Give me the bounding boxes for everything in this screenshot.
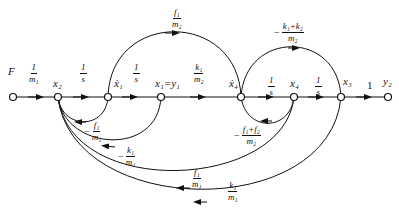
arc-x3-x4dot [241, 47, 341, 97]
node-y2 [385, 94, 392, 101]
arc-x1dot-x2 [58, 97, 108, 122]
signal-flow-graph: F x₂ ẋ₁ x₁=y₁ ẋ₄ x₄ x₃ y₂ 1m₁ 1s 1s k₁m₂… [0, 0, 399, 208]
node-label-x4: x₄ [290, 78, 299, 89]
node-x3 [338, 94, 345, 101]
gain-arc-x4-x4dot: − f₁+f₂m₂ [234, 125, 261, 146]
gain-x4dot-x4: 1s [268, 76, 275, 97]
gain-x1-x4dot: k₁m₂ [194, 63, 204, 84]
node-x1 [158, 94, 165, 101]
gain-x1dot-x1: 1s [133, 63, 140, 84]
gain-x4-x3: 1s [315, 76, 322, 97]
gain-arc-x3-x2: k₁m₁ [228, 181, 238, 202]
gain-x2-x1dot: 1s [80, 63, 87, 84]
node-F [10, 94, 17, 101]
node-label-x2: x₂ [53, 78, 62, 89]
gain-x3-y2: 1 [367, 80, 373, 91]
node-label-x1: x₁=y₁ [155, 78, 180, 89]
node-label-x3: x₃ [343, 76, 352, 87]
node-x4 [291, 94, 298, 101]
node-label-x4dot: ẋ₄ [229, 78, 238, 89]
gain-arc-x1dot-x2: − f₁m₁ [84, 121, 101, 142]
gain-F-x2: 1m₁ [29, 63, 39, 84]
arc-x4-x4dot [241, 97, 294, 123]
node-x1dot [105, 94, 112, 101]
gain-arc-x1dot-x4dot: f₁m₂ [172, 8, 182, 29]
node-x4dot [238, 94, 245, 101]
node-x2 [55, 94, 62, 101]
gain-arc-x1-x2: − k₁m₁ [118, 146, 135, 167]
gain-arc-x3-x4dot: − k₁+k₂m₂ [274, 22, 304, 43]
node-label-y2: y₂ [383, 76, 392, 87]
gain-arc-x4-x2: f₁m₁ [192, 168, 202, 189]
node-label-x1dot: ẋ₁ [114, 78, 123, 89]
node-label-F: F [8, 66, 15, 77]
